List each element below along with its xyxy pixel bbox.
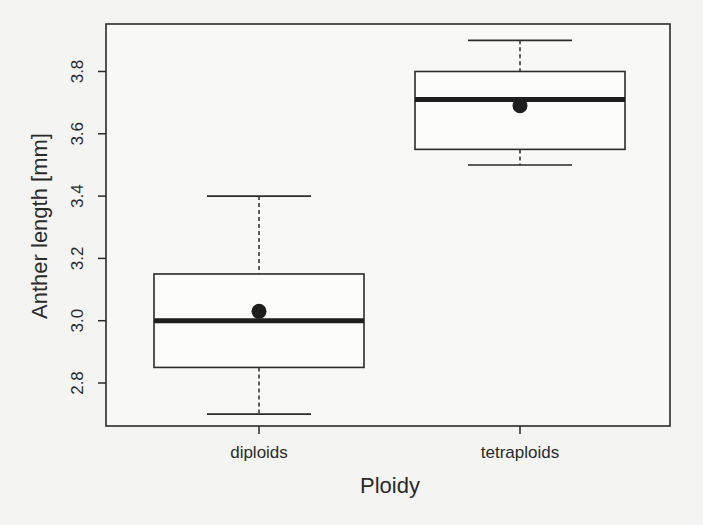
y-tick-label: 3.0 [68,309,87,333]
x-axis: diploidstetraploids [230,426,559,462]
y-tick-label: 3.6 [68,122,87,146]
x-axis-title: Ploidy [360,473,420,498]
mean-dot [513,98,528,113]
x-tick-label: diploids [230,443,288,462]
y-tick-label: 3.8 [68,60,87,84]
y-axis: 2.83.03.23.43.63.8 [68,60,106,395]
y-tick-label: 2.8 [68,371,87,395]
x-tick-label: tetraploids [481,443,559,462]
y-tick-label: 3.2 [68,247,87,271]
boxplot-chart: 2.83.03.23.43.63.8 diploidstetraploids A… [0,0,703,525]
y-axis-title: Anther length [mm] [27,133,52,319]
y-tick-label: 3.4 [68,184,87,208]
mean-dot [252,304,267,319]
